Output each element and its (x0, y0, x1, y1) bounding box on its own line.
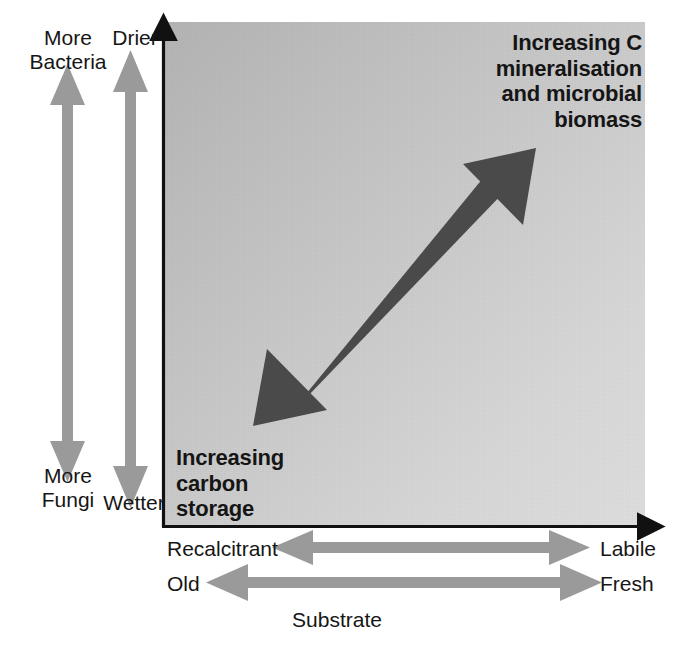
gradient-trend-arrow (253, 148, 536, 426)
label-drier: Drier (104, 26, 166, 50)
label-substrate-axis-title: Substrate (0, 608, 674, 632)
figure-root: More Bacteria More Fungi Drier Wetter In… (0, 0, 674, 652)
label-wetter: Wetter (96, 491, 172, 515)
arrow-recalcitrant-labile (272, 530, 590, 565)
callout-increasing-c-mineralisation: Increasing C mineralisation and microbia… (396, 30, 642, 132)
arrow-bacteria-fungi (50, 64, 85, 482)
callout-increasing-carbon-storage: Increasing carbon storage (176, 445, 366, 522)
arrow-drier-wetter (113, 50, 148, 508)
label-old: Old (167, 572, 200, 596)
label-fresh: Fresh (600, 572, 654, 596)
arrow-old-fresh (206, 564, 602, 601)
label-recalcitrant: Recalcitrant (167, 537, 278, 561)
label-labile: Labile (600, 537, 656, 561)
